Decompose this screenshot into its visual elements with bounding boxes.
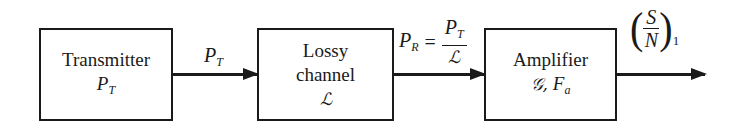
- output-snr-label: ( S N ) 1: [630, 6, 679, 51]
- amplifier-block: Amplifier 𝒢, Fa: [484, 28, 617, 121]
- arrow-channel-to-amplifier: [393, 73, 484, 76]
- amplifier-gain-noise-figure: 𝒢, Fa: [531, 72, 571, 102]
- transmitter-label: Transmitter: [62, 48, 150, 72]
- received-power-equation: PR = PT ℒ: [399, 16, 467, 68]
- transmitted-power-label: PT: [204, 44, 223, 70]
- transmitter-block: Transmitter PT: [39, 28, 173, 121]
- transmitter-power-symbol: PT: [97, 72, 115, 102]
- amplifier-label: Amplifier: [513, 48, 588, 72]
- arrow-amplifier-output: [616, 73, 705, 76]
- lossy-channel-label-line1: Lossy: [303, 39, 348, 63]
- loss-symbol: ℒ: [320, 87, 332, 111]
- arrow-transmitter-to-channel: [172, 73, 257, 76]
- lossy-channel-block: Lossy channel ℒ: [257, 28, 394, 121]
- lossy-channel-label-line2: channel: [296, 63, 355, 87]
